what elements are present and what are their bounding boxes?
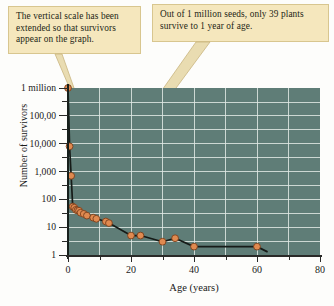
y-axis-tick	[59, 255, 68, 256]
x-axis-tick-label: 20	[116, 264, 146, 275]
x-axis-minor-tick	[226, 257, 227, 260]
y-axis-minor-tick	[62, 241, 68, 242]
y-axis-minor-tick	[62, 157, 68, 158]
survivorship-series	[0, 0, 334, 306]
y-axis-minor-tick	[62, 129, 68, 130]
x-axis-tick	[194, 257, 195, 262]
y-axis-tick	[59, 88, 68, 89]
x-axis-minor-tick	[100, 257, 101, 260]
series-line	[68, 88, 267, 252]
x-axis-tick	[257, 257, 258, 262]
x-axis-tick-label: 0	[53, 264, 83, 275]
x-axis-tick	[320, 257, 321, 262]
data-point-marker	[93, 215, 100, 222]
y-axis-tick-label: 100	[42, 194, 56, 204]
data-point-marker	[128, 232, 135, 239]
y-axis-tick	[59, 143, 68, 144]
data-point-marker	[191, 243, 198, 250]
y-axis-minor-tick	[62, 101, 68, 102]
data-point-marker	[159, 238, 166, 245]
y-axis-title: Number of survivors	[18, 81, 29, 211]
x-axis-minor-tick	[289, 257, 290, 260]
x-axis-tick-label: 40	[179, 264, 209, 275]
data-point-marker	[84, 212, 91, 219]
y-axis-minor-tick	[62, 213, 68, 214]
y-axis-tick-label: 10	[46, 222, 56, 232]
series-markers	[65, 85, 261, 250]
y-axis-tick	[59, 227, 68, 228]
y-axis-tick-label: 1,000	[34, 167, 56, 177]
data-point-marker	[172, 235, 179, 242]
y-axis-tick-label: 1	[51, 250, 56, 260]
y-axis-tick-label: 100,00	[30, 111, 56, 121]
y-axis-minor-tick	[62, 185, 68, 186]
x-axis-tick-label: 80	[305, 264, 334, 275]
data-point-marker	[254, 243, 261, 250]
x-axis-minor-tick	[163, 257, 164, 260]
x-axis-tick-label: 60	[242, 264, 272, 275]
y-axis-tick	[59, 115, 68, 116]
x-axis-tick	[68, 257, 69, 262]
x-axis-tick	[131, 257, 132, 262]
y-axis-tick	[59, 171, 68, 172]
data-point-marker	[137, 232, 144, 239]
y-axis-tick	[59, 199, 68, 200]
data-point-marker	[106, 220, 113, 227]
y-axis-tick-label: 10,000	[30, 139, 56, 149]
x-axis-title: Age (years)	[68, 282, 320, 293]
